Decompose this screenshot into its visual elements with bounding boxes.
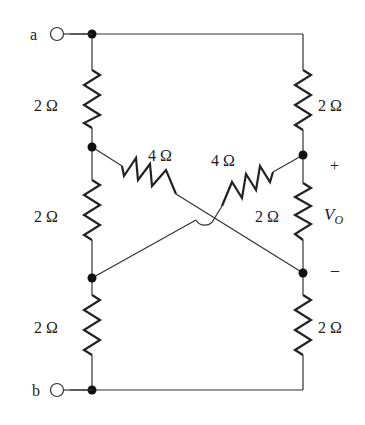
vo-plus: +: [330, 157, 339, 174]
circuit-diagram: a b 2 Ω 2 Ω 2 Ω 2 Ω 2 Ω 2 Ω 4 Ω 4 Ω + VO…: [0, 0, 365, 425]
terminal-a-label: a: [30, 26, 37, 43]
terminal-b-label: b: [32, 382, 40, 399]
diag-left-wire: [92, 147, 122, 166]
node: [88, 143, 97, 152]
terminal-b: [51, 384, 64, 397]
node: [299, 151, 308, 160]
diag-right-wire: [92, 220, 196, 278]
resistor-diag-left-label: 4 Ω: [148, 147, 172, 164]
resistor-left-bot: [84, 295, 100, 355]
diag-right-wire: [214, 206, 222, 219]
resistor-right-top: [295, 70, 311, 130]
resistor-right-mid-label: 2 Ω: [255, 208, 279, 225]
vo-minus: –: [330, 261, 340, 278]
crossover-hop: [196, 219, 214, 225]
node: [88, 274, 97, 283]
diag-right-wire: [273, 155, 303, 172]
diag-left-wire: [176, 194, 303, 273]
resistor-left-mid: [84, 180, 100, 240]
vo-label: VO: [324, 205, 343, 227]
resistor-left-mid-label: 2 Ω: [34, 208, 58, 225]
resistor-diag-right-label: 4 Ω: [211, 152, 235, 169]
resistor-diag-right: [222, 166, 273, 206]
resistor-left-top: [84, 70, 100, 128]
node: [299, 269, 308, 278]
resistor-right-mid: [295, 183, 311, 240]
resistor-right-bot: [295, 295, 311, 355]
resistor-right-top-label: 2 Ω: [318, 97, 342, 114]
terminal-a: [51, 28, 64, 41]
resistor-left-bot-label: 2 Ω: [34, 319, 58, 336]
resistor-right-bot-label: 2 Ω: [318, 319, 342, 336]
resistor-left-top-label: 2 Ω: [34, 97, 58, 114]
